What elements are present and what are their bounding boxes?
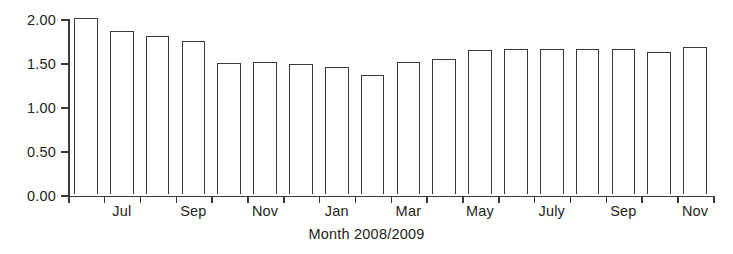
y-tick-label: 0.50	[2, 145, 56, 160]
x-tick	[176, 196, 178, 203]
y-tick-label: 1.50	[2, 57, 56, 72]
bar	[74, 18, 98, 195]
x-tick-label: July	[538, 203, 565, 219]
bar	[110, 31, 134, 195]
y-tick-label: 1.00	[2, 101, 56, 116]
x-tick	[211, 196, 213, 203]
x-tick	[426, 196, 428, 203]
x-tick-label: Sep	[180, 203, 206, 219]
bar	[182, 41, 206, 194]
x-tick	[606, 196, 608, 203]
bar	[576, 49, 600, 195]
x-tick	[283, 196, 285, 203]
bar	[289, 64, 313, 194]
x-tick-label: Jul	[112, 203, 131, 219]
x-axis-title: Month 2008/2009	[0, 226, 733, 242]
x-tick-label: Jan	[325, 203, 349, 219]
x-tick-label: Nov	[252, 203, 278, 219]
x-tick	[498, 196, 500, 203]
x-tick	[68, 196, 70, 203]
bar	[504, 49, 528, 194]
y-tick	[61, 195, 68, 197]
bar	[217, 63, 241, 194]
x-tick	[641, 196, 643, 203]
x-tick-label: Nov	[682, 203, 708, 219]
bar	[468, 50, 492, 194]
bar	[432, 59, 456, 194]
bar	[683, 47, 707, 195]
bar	[361, 75, 385, 195]
bar	[146, 36, 170, 194]
x-tick	[713, 196, 715, 203]
bar	[612, 49, 636, 195]
x-tick	[104, 196, 106, 203]
y-tick	[61, 63, 68, 65]
bar	[540, 49, 564, 195]
x-tick	[677, 196, 679, 203]
x-tick	[462, 196, 464, 203]
y-tick	[61, 151, 68, 153]
x-tick	[391, 196, 393, 203]
x-tick	[247, 196, 249, 203]
x-tick-label: May	[466, 203, 494, 219]
x-tick	[140, 196, 142, 203]
bar	[397, 62, 421, 195]
y-tick-label: 0.00	[2, 189, 56, 204]
x-tick	[319, 196, 321, 203]
bar-series	[68, 19, 713, 196]
x-tick	[355, 196, 357, 203]
y-tick	[61, 107, 68, 109]
x-tick-label: Mar	[396, 203, 422, 219]
x-tick-label: Sep	[610, 203, 636, 219]
y-tick	[61, 19, 68, 21]
bar	[253, 62, 277, 195]
bar	[325, 67, 349, 194]
y-tick-label: 2.00	[2, 13, 56, 28]
x-tick	[534, 196, 536, 203]
bar	[647, 52, 671, 194]
x-tick	[570, 196, 572, 203]
bar-chart-figure: 0.000.501.001.502.00 JulSepNovJanMarMayJ…	[0, 0, 733, 254]
